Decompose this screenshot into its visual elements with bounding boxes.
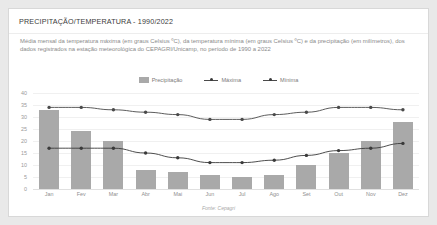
data-point[interactable] (176, 156, 179, 159)
x-axis-tick: Ago (258, 191, 290, 197)
plot-area (33, 93, 419, 189)
y-axis-tick: 30 (21, 114, 27, 120)
data-point[interactable] (144, 111, 147, 114)
x-axis-tick: Dez (387, 191, 419, 197)
x-axis-tick: Nov (355, 191, 387, 197)
y-axis-tick: 10 (21, 162, 27, 168)
x-axis-tick: Jan (33, 191, 65, 197)
data-point[interactable] (208, 161, 211, 164)
line-path-máxima (49, 107, 403, 119)
y-axis-tick: 35 (21, 102, 27, 108)
data-point[interactable] (305, 111, 308, 114)
legend-label: Precipitação (152, 77, 183, 83)
x-axis-tick: Jul (226, 191, 258, 197)
data-point[interactable] (305, 154, 308, 157)
x-axis-tick: Out (323, 191, 355, 197)
data-point[interactable] (47, 106, 50, 109)
legend-item-máxima[interactable]: Máxima (204, 77, 241, 83)
chart-card: PRECIPITAÇÃO/TEMPERATURA - 1990/2022 Méd… (8, 8, 429, 217)
x-axis-tick: Mai (162, 191, 194, 197)
x-axis-tick: Fev (65, 191, 97, 197)
data-point[interactable] (369, 106, 372, 109)
data-point[interactable] (273, 113, 276, 116)
x-axis-tick: Abr (130, 191, 162, 197)
data-point[interactable] (80, 147, 83, 150)
legend-line-icon (204, 77, 218, 83)
data-point[interactable] (176, 113, 179, 116)
y-axis-tick: 5 (24, 174, 27, 180)
x-axis-labels: JanFevMarAbrMaiJunJulAgoSetOutNovDez (33, 191, 419, 197)
data-point[interactable] (401, 142, 404, 145)
data-point[interactable] (208, 118, 211, 121)
data-point[interactable] (144, 151, 147, 154)
x-axis-tick: Set (290, 191, 322, 197)
chart-legend: PrecipitaçãoMáximaMínima (9, 77, 428, 83)
legend-label: Mínima (280, 77, 298, 83)
data-point[interactable] (273, 159, 276, 162)
legend-label: Máxima (221, 77, 241, 83)
data-point[interactable] (240, 161, 243, 164)
gridline (33, 189, 419, 190)
y-axis-labels: 4035302520151050 (9, 93, 29, 189)
title-divider (9, 33, 428, 34)
line-series (33, 93, 419, 189)
legend-item-precipitação[interactable]: Precipitação (139, 77, 183, 83)
legend-item-mínima[interactable]: Mínima (263, 77, 298, 83)
data-point[interactable] (47, 147, 50, 150)
data-point[interactable] (369, 147, 372, 150)
x-axis-tick: Jun (194, 191, 226, 197)
data-point[interactable] (80, 106, 83, 109)
data-point[interactable] (112, 108, 115, 111)
data-point[interactable] (112, 147, 115, 150)
page-title: PRECIPITAÇÃO/TEMPERATURA - 1990/2022 (19, 17, 173, 26)
legend-swatch-icon (139, 77, 149, 83)
line-path-mínima (49, 143, 403, 162)
data-point[interactable] (337, 106, 340, 109)
data-point[interactable] (401, 108, 404, 111)
y-axis-tick: 40 (21, 90, 27, 96)
y-axis-tick: 0 (24, 186, 27, 192)
legend-line-icon (263, 77, 277, 83)
y-axis-tick: 20 (21, 138, 27, 144)
data-point[interactable] (240, 118, 243, 121)
y-axis-tick: 25 (21, 126, 27, 132)
data-point[interactable] (337, 149, 340, 152)
x-axis-tick: Mar (97, 191, 129, 197)
y-axis-tick: 15 (21, 150, 27, 156)
chart-description: Média mensal da temperatura máxima (em g… (20, 37, 418, 54)
chart-source: Fonte: Cepagri (9, 205, 428, 211)
